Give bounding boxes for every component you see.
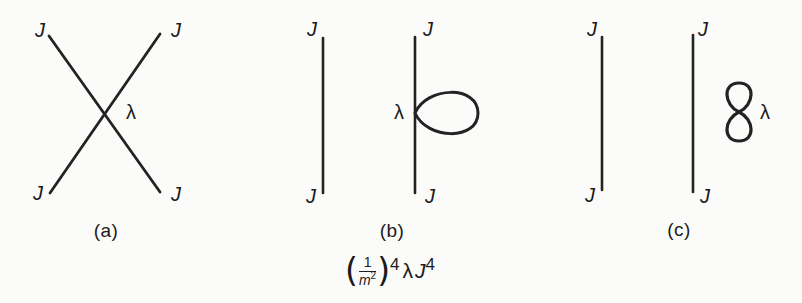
- source-label-j: J: [171, 20, 181, 40]
- source-label-j: J: [33, 183, 43, 203]
- source-label-j: J: [587, 19, 597, 39]
- source-label-j: J: [425, 186, 435, 206]
- mass-symbol: m: [359, 272, 371, 288]
- close-paren: ): [377, 256, 390, 286]
- source-label-j: J: [423, 19, 433, 39]
- diagram-caption-a: (a): [94, 221, 119, 240]
- source-label-j: J: [307, 19, 317, 39]
- coupling-lambda-label: λ: [394, 102, 404, 122]
- source-label-j: J: [171, 184, 181, 204]
- coupling-lambda-label: λ: [126, 102, 136, 122]
- source-label-j: J: [698, 19, 708, 39]
- amplitude-formula: ( 1 m2 ) 4 λ J 4: [345, 255, 435, 287]
- source-label-j: J: [35, 20, 45, 40]
- source-symbol: J: [415, 259, 426, 283]
- coupling-lambda-symbol: λ: [402, 259, 413, 283]
- mass-exponent: 2: [371, 270, 377, 281]
- open-paren: (: [345, 256, 358, 286]
- vacuum-bubble-figure-eight: [727, 83, 751, 141]
- source-exponent: 4: [425, 256, 434, 273]
- tadpole-loop: [415, 92, 478, 133]
- source-label-j: J: [700, 186, 710, 206]
- paren-exponent: 4: [390, 256, 399, 273]
- mass-fraction: 1 m2: [359, 255, 376, 287]
- fraction-denominator: m2: [359, 271, 376, 287]
- source-label-j: J: [306, 186, 316, 206]
- feynman-diagram-figure: J J J J λ (a) J J J J λ (b) J J J J λ (c…: [0, 0, 802, 303]
- diagram-caption-c: (c): [667, 220, 691, 239]
- source-label-j: J: [585, 185, 595, 205]
- diagram-caption-b: (b): [380, 221, 405, 240]
- fraction-numerator: 1: [364, 255, 372, 271]
- coupling-lambda-label: λ: [760, 102, 770, 122]
